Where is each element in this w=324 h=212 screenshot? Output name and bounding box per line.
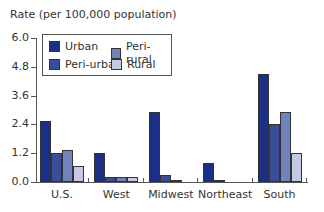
bar-urban bbox=[40, 121, 51, 182]
bar-rural bbox=[73, 166, 84, 182]
x-tick-label: West bbox=[86, 188, 146, 201]
x-tick-label: Northeast bbox=[195, 188, 255, 201]
legend-label: Rural bbox=[127, 58, 155, 71]
x-tick bbox=[306, 178, 307, 182]
bar-rural bbox=[127, 177, 138, 182]
bar-peri-urban bbox=[269, 124, 280, 182]
y-tick-label: 6.0 bbox=[0, 31, 29, 44]
bar-rural bbox=[291, 153, 302, 182]
y-tick-label: 0.0 bbox=[0, 175, 29, 188]
bar-urban bbox=[258, 74, 269, 182]
x-tick-label: U.S. bbox=[32, 188, 92, 201]
legend-swatch bbox=[49, 41, 60, 52]
legend-item-rural: Rural bbox=[111, 58, 155, 71]
x-tick bbox=[143, 178, 144, 182]
bar-peri-urban bbox=[105, 177, 116, 182]
bar-peri-rural bbox=[62, 150, 73, 182]
legend-label: Urban bbox=[65, 40, 98, 53]
legend-swatch bbox=[111, 59, 122, 70]
y-axis-title: Rate (per 100,000 population) bbox=[10, 8, 177, 21]
bar-peri-urban bbox=[51, 153, 62, 182]
x-axis-line bbox=[36, 182, 308, 183]
bar-urban bbox=[203, 163, 214, 182]
bar-urban bbox=[94, 153, 105, 182]
bar-peri-urban bbox=[160, 175, 171, 182]
bar-peri-rural bbox=[116, 177, 127, 182]
legend-swatch bbox=[49, 59, 60, 70]
y-tick-label: 1.2 bbox=[0, 146, 29, 159]
bar-urban bbox=[149, 112, 160, 182]
y-tick-label: 4.8 bbox=[0, 60, 29, 73]
bar-peri-rural bbox=[171, 180, 182, 182]
legend-swatch bbox=[111, 48, 121, 59]
legend-item-urban: Urban bbox=[49, 40, 98, 53]
y-tick-label: 2.4 bbox=[0, 117, 29, 130]
y-tick-label: 3.6 bbox=[0, 89, 29, 102]
legend: Urban Peri-rural Peri-urban Rural bbox=[42, 34, 172, 76]
x-tick bbox=[88, 178, 89, 182]
x-tick-label: South bbox=[250, 188, 310, 201]
x-tick bbox=[252, 178, 253, 182]
x-tick bbox=[197, 178, 198, 182]
bar-peri-rural bbox=[280, 112, 291, 182]
bar-peri-urban bbox=[214, 180, 225, 182]
x-tick-label: Midwest bbox=[141, 188, 201, 201]
